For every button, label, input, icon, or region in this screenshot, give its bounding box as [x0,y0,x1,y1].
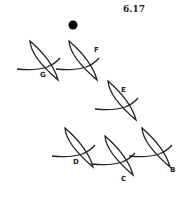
label-c: C [121,175,126,183]
label-f: F [94,46,99,54]
label-e: E [121,86,126,94]
lens-figure-b [129,128,172,167]
diagram-canvas [0,0,181,198]
label-b: B [170,166,175,174]
dot-marker [69,21,78,30]
lens-figure-g [17,41,60,80]
lens-figure-e [95,81,138,120]
label-d: D [73,158,79,166]
figure-number: 6.17 [123,4,145,14]
label-g: G [40,71,46,79]
lens-figure-f [56,41,99,80]
lens-figure-c [92,136,135,175]
